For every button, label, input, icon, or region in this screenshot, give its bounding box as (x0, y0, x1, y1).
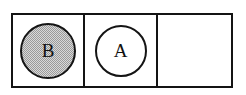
cell-3-empty[interactable] (158, 15, 231, 86)
three-cell-diagram: B A (11, 13, 233, 88)
token-a-label: A (114, 41, 128, 60)
token-b-circle[interactable]: B (20, 23, 76, 79)
token-b-label: B (41, 41, 56, 60)
token-a-circle[interactable]: A (95, 25, 147, 77)
cell-2[interactable]: A (85, 15, 158, 86)
cell-1[interactable]: B (13, 15, 85, 86)
